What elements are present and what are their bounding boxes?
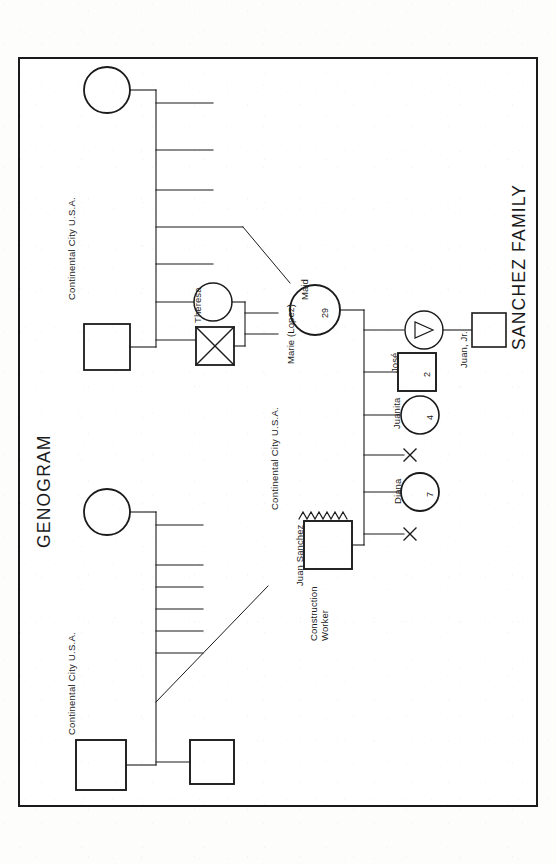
page-title-sanchez-family: SANCHEZ FAMILY xyxy=(511,184,529,350)
label-juan-sanchez-occupation-line1: ConstructionWorker xyxy=(309,521,331,641)
age-jose: 2 xyxy=(422,372,432,377)
label-theresa: Theresa xyxy=(193,287,203,323)
label-jose: José xyxy=(390,353,400,373)
occupation-word: Worker xyxy=(320,521,331,641)
genogram-page: GENOGRAM SANCHEZ FAMILY Continental City… xyxy=(0,0,556,864)
location-label-paternal: Continental City U.S.A. xyxy=(67,632,77,735)
age-diana: 7 xyxy=(425,492,435,497)
age-marie: 29 xyxy=(320,308,330,318)
label-juanita: Juanita xyxy=(392,398,402,429)
label-diana: Diana xyxy=(393,479,403,504)
location-label-middle: Continental City U.S.A. xyxy=(270,407,280,510)
location-label-maternal: Continental City U.S.A. xyxy=(67,197,77,300)
label-marie-occupation: Maid xyxy=(300,279,310,300)
label-juan-sanchez-name: Juan Sanchez xyxy=(295,525,305,586)
age-juanita: 4 xyxy=(425,415,435,420)
label-juan-jr: Juan, Jr. xyxy=(459,331,469,368)
page-title-genogram: GENOGRAM xyxy=(36,434,54,548)
label-marie-name: Marie (Lopez) xyxy=(286,304,296,364)
